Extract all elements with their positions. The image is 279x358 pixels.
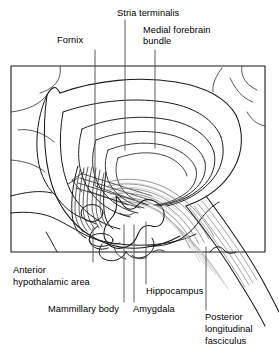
amygdala-mammillary-complex bbox=[89, 226, 154, 261]
septal-frontal-outline bbox=[11, 95, 196, 252]
label-posterior-longitudinal-fasciculus-line3: fasciculus bbox=[205, 336, 246, 347]
label-stria-terminalis: Stria terminalis bbox=[117, 8, 179, 19]
label-posterior-longitudinal-fasciculus-line1: Posterior bbox=[205, 312, 243, 323]
label-hippocampus: Hippocampus bbox=[146, 286, 203, 297]
label-posterior-longitudinal-fasciculus-line2: longitudinal bbox=[205, 324, 253, 335]
label-fornix: Fornix bbox=[57, 35, 83, 46]
corpus-callosum bbox=[79, 117, 215, 217]
leader-lines bbox=[93, 20, 206, 310]
label-medial-forebrain-bundle-line2: bundle bbox=[143, 36, 171, 47]
label-mammillary-body: Mammillary body bbox=[48, 304, 119, 315]
label-medial-forebrain-bundle-line1: Medial forebrain bbox=[143, 25, 210, 36]
cortical-sulci bbox=[11, 66, 265, 172]
label-amygdala: Amygdala bbox=[133, 304, 175, 315]
label-anterior-hypothalamic-area-line1: Anterior bbox=[13, 265, 46, 276]
label-anterior-hypothalamic-area-line2: hypothalamic area bbox=[13, 277, 90, 288]
